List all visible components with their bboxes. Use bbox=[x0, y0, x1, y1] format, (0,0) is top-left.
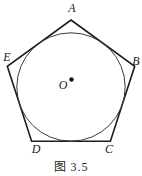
center-label-o: O bbox=[59, 79, 68, 91]
vertex-label-d: D bbox=[32, 143, 41, 155]
figure-caption: 图 3.5 bbox=[0, 157, 142, 175]
inscribed-circle bbox=[17, 33, 125, 141]
geometry-figure: A B C D E O 图 3.5 bbox=[0, 0, 142, 176]
center-dot bbox=[69, 77, 73, 81]
pentagon-incircle-diagram bbox=[0, 0, 142, 156]
vertex-label-b: B bbox=[132, 55, 139, 67]
vertex-label-c: C bbox=[105, 143, 113, 155]
vertex-label-e: E bbox=[3, 51, 10, 63]
vertex-label-a: A bbox=[68, 2, 75, 14]
